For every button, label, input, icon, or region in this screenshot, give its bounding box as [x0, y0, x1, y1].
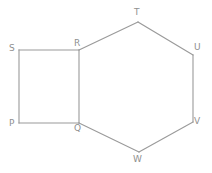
vertex-label-w: W: [133, 155, 142, 164]
vertex-label-q: Q: [74, 124, 81, 133]
edge-group: [19, 22, 193, 152]
edge-rt: [79, 22, 138, 50]
edge-wq: [79, 123, 139, 152]
vertex-label-t: T: [134, 8, 140, 17]
figure-canvas: [0, 0, 212, 173]
edge-vw: [139, 122, 193, 152]
geometry-figure: PQRSTUVW: [0, 0, 212, 173]
vertex-label-p: P: [9, 119, 14, 128]
vertex-label-r: R: [74, 39, 80, 48]
vertex-label-u: U: [194, 43, 201, 52]
vertex-label-v: V: [194, 117, 200, 126]
edge-tu: [138, 22, 193, 55]
vertex-label-s: S: [9, 44, 15, 53]
